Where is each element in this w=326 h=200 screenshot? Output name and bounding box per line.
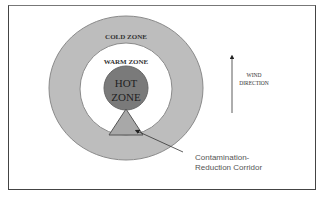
wind-label-line2: DIRECTION [239, 80, 269, 86]
corridor-label-line1: Contamination- [195, 153, 250, 162]
warm-zone-label: WARM ZONE [104, 58, 149, 66]
hot-zone-label-line1: HOT [115, 77, 138, 89]
wind-label-line1: WIND [247, 72, 262, 78]
zone-diagram: COLD ZONE WARM ZONE HOT ZONE Contaminati… [0, 0, 326, 200]
cold-zone-label: COLD ZONE [105, 33, 147, 41]
corridor-label-line2: Reduction Corridor [195, 163, 262, 172]
hot-zone-label-line2: ZONE [111, 91, 141, 103]
